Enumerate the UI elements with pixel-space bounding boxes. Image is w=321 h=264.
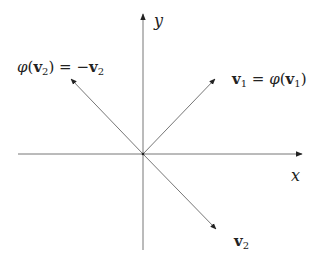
vector-v1 [143, 79, 215, 154]
origin-point [142, 153, 145, 156]
v1-inner-symbol: v [286, 70, 295, 88]
phi-symbol: φ [17, 58, 28, 76]
equals-minus: = − [54, 58, 89, 76]
v2-rhs-subscript: 2 [98, 66, 104, 77]
vector-minus-v2 [71, 79, 143, 154]
label-v2: v2 [234, 234, 249, 251]
v2-rhs-symbol: v [89, 58, 98, 76]
v2-symbol: v [234, 232, 243, 250]
label-phi-v2-equation: φ(v2) = −v2 [17, 60, 104, 77]
x-axis-label: x [291, 168, 300, 184]
v2-inner-symbol: v [33, 58, 42, 76]
v1-symbol: v [232, 70, 241, 88]
diagram-canvas [0, 0, 321, 264]
y-axis-label: y [154, 13, 163, 29]
paren-close: ) [301, 70, 307, 88]
label-v1-equation: v1 = φ(v1) [232, 72, 307, 89]
v2-subscript: 2 [243, 240, 249, 251]
phi-symbol: φ [269, 70, 280, 88]
vector-v2 [143, 154, 216, 229]
equals-sign: = [247, 70, 269, 88]
